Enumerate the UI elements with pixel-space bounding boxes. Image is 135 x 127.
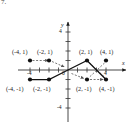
y-tick-neg4: -4 bbox=[57, 105, 62, 111]
label-point-4-neg1: (4, -1) bbox=[99, 86, 114, 92]
point-2-1 bbox=[85, 58, 89, 62]
label-point-4-1: (4, 1) bbox=[100, 49, 113, 55]
origin-label: 0 bbox=[62, 71, 65, 77]
label-point-neg2-1: (-2, 1) bbox=[37, 49, 52, 55]
point-2-neg1 bbox=[85, 77, 89, 81]
x-tick-4: 4 bbox=[104, 71, 107, 77]
label-point-neg4-neg1: (-4, -1) bbox=[6, 86, 24, 92]
figure-container: 7. bbox=[0, 0, 135, 127]
axis-lines bbox=[18, 22, 126, 122]
point-neg2-1 bbox=[47, 58, 51, 62]
label-point-2-neg1: (2, -1) bbox=[76, 86, 91, 92]
point-neg4-neg1 bbox=[28, 77, 32, 81]
point-neg2-neg1 bbox=[47, 77, 51, 81]
label-point-neg2-neg1: (-2, -1) bbox=[33, 86, 51, 92]
label-point-neg4-1: (-4, 1) bbox=[12, 49, 27, 55]
dashed-arrow-2 bbox=[52, 62, 65, 68]
point-4-neg1 bbox=[104, 77, 108, 81]
x-tick-neg4: -4 bbox=[27, 71, 32, 77]
y-tick-4: 4 bbox=[59, 29, 62, 35]
coordinate-plot bbox=[0, 0, 135, 127]
dashed-arrow-3 bbox=[72, 74, 85, 79]
label-point-2-1: (2, 1) bbox=[79, 49, 92, 55]
x-axis-label: x bbox=[122, 60, 125, 66]
point-4-1 bbox=[104, 58, 108, 62]
point-neg4-1 bbox=[28, 58, 32, 62]
